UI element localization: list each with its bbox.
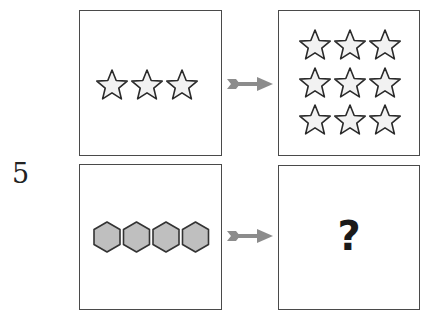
arrow-right-icon: [227, 228, 273, 244]
star-icon: [335, 105, 365, 134]
star-icon: [300, 68, 330, 97]
star-icon: [370, 68, 400, 97]
star-icon: [300, 105, 330, 134]
star-icon: [132, 70, 162, 99]
star-icon: [370, 105, 400, 134]
star-icon: [97, 70, 127, 99]
hexagon-icon: [183, 222, 209, 252]
panel-top-left-three-stars: [79, 10, 222, 156]
panel-top-right-nine-stars: [278, 10, 420, 156]
question-mark-placeholder: ?: [279, 216, 419, 256]
arrow-right-icon: [227, 76, 273, 92]
hexagon-icon: [124, 222, 150, 252]
star-icon: [335, 30, 365, 59]
star-icon: [300, 30, 330, 59]
question-number: 5: [12, 160, 29, 187]
panel-bottom-right-answer: ?: [278, 165, 420, 310]
hexagon-icon: [153, 222, 179, 252]
star-icon: [370, 30, 400, 59]
star-icon: [167, 70, 197, 99]
panel-bottom-left-four-hexagons: [79, 164, 222, 310]
hexagon-icon: [94, 222, 120, 252]
star-icon: [335, 68, 365, 97]
